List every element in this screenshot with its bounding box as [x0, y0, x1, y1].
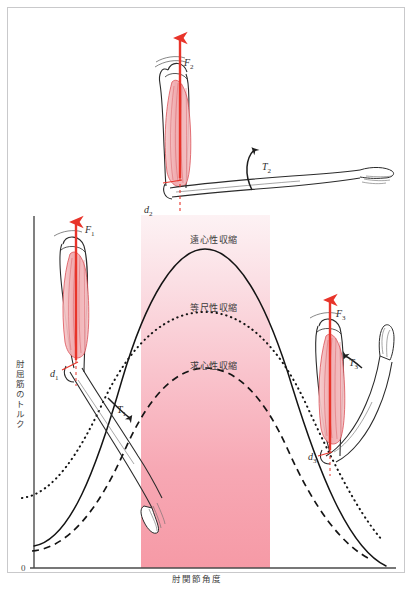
- y-axis-label: 肘屈筋のトルク: [14, 360, 23, 430]
- label-torque-T3: T3: [349, 357, 358, 371]
- label-moment-arm-d2: d2: [144, 204, 153, 218]
- axis-origin-label: 0: [21, 563, 26, 573]
- label-force-F1: F1: [85, 224, 95, 238]
- curve-label-concentric: 求心性収縮: [190, 359, 238, 372]
- label-torque-T1: T1: [117, 404, 126, 418]
- highlight-band: [141, 215, 270, 568]
- arm-extended-right: [310, 300, 394, 476]
- label-moment-arm-d1: d1: [50, 368, 59, 382]
- x-axis-label: 肘関節角度: [172, 572, 222, 584]
- plot-canvas: [0, 0, 414, 591]
- label-force-F3: F3: [336, 308, 346, 322]
- label-moment-arm-d3: d3: [308, 451, 317, 465]
- curve-label-eccentric: 遠心性収縮: [190, 233, 238, 246]
- curve-label-isometric: 等尺性収縮: [190, 301, 238, 314]
- torque-arrow-T2: [247, 150, 254, 190]
- label-force-F2: F2: [184, 57, 194, 71]
- figure-page: 遠心性収縮 等尺性収縮 求心性収縮 F1 F2 F3 T1 T2 T3 d1 d…: [0, 0, 414, 591]
- label-torque-T2: T2: [262, 161, 271, 175]
